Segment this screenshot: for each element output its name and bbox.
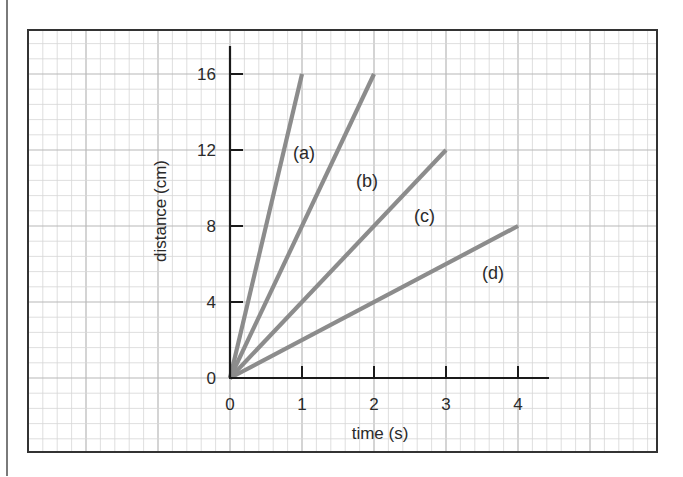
- series-label-d: (d): [482, 263, 504, 283]
- y-tick-label: 4: [207, 293, 216, 312]
- series-label-b: (b): [356, 171, 378, 191]
- graph-paper-grid: [29, 31, 656, 451]
- series-label-a: (a): [293, 143, 315, 163]
- distance-time-chart: 012340481216 (a) (b) (c) (d) time (s) di…: [0, 0, 683, 477]
- x-tick-label: 0: [225, 395, 234, 414]
- y-tick-label: 0: [207, 369, 216, 388]
- x-tick-label: 4: [513, 395, 522, 414]
- y-tick-label: 12: [197, 141, 216, 160]
- x-axis-title: time (s): [352, 424, 409, 443]
- y-tick-label: 16: [197, 65, 216, 84]
- x-tick-label: 3: [441, 395, 450, 414]
- y-axis-title: distance (cm): [151, 160, 170, 262]
- x-tick-label: 1: [297, 395, 306, 414]
- series-label-c: (c): [414, 206, 435, 226]
- y-tick-label: 8: [207, 217, 216, 236]
- series-line-c: [230, 150, 446, 378]
- x-tick-label: 2: [369, 395, 378, 414]
